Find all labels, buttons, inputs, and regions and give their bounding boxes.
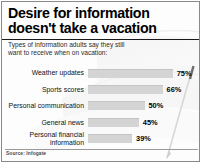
bar-value: 50% bbox=[149, 101, 164, 110]
bar bbox=[88, 85, 163, 94]
row-label: Weather updates bbox=[2, 69, 88, 77]
row-label: Sports scores bbox=[2, 86, 88, 94]
row-label: Personal financial information bbox=[2, 131, 88, 146]
bar-value: 39% bbox=[136, 134, 151, 143]
chart-row: Sports scores 66% bbox=[2, 81, 200, 97]
row-label: General news bbox=[2, 119, 88, 127]
bar bbox=[88, 134, 132, 143]
bar-zone: 50% bbox=[88, 98, 200, 114]
chart-row: Weather updates 75% bbox=[2, 65, 200, 81]
footer-divider bbox=[5, 149, 198, 150]
bar-zone: 66% bbox=[88, 81, 200, 97]
page-title: Desire for information doesn't take a va… bbox=[8, 6, 195, 36]
infographic-card: Desire for information doesn't take a va… bbox=[0, 0, 201, 163]
chart-subtitle: Types of information adults say they sti… bbox=[8, 41, 128, 57]
bar bbox=[88, 118, 139, 127]
bar-value: 45% bbox=[143, 118, 158, 127]
chart-row: Personal financial information 39% bbox=[2, 131, 200, 147]
bar bbox=[88, 69, 173, 78]
chart-row: General news 45% bbox=[2, 114, 200, 130]
bar-zone: 75% bbox=[88, 65, 200, 81]
bar-zone: 45% bbox=[88, 114, 200, 130]
bar-value: 66% bbox=[167, 85, 182, 94]
bar-chart: Weather updates 75% Sports scores 66% Pe… bbox=[2, 65, 200, 147]
bar-value: 75% bbox=[177, 69, 192, 78]
chart-row: Personal communication 50% bbox=[2, 98, 200, 114]
source-note: Source: Infogate bbox=[6, 151, 46, 157]
bar-zone: 39% bbox=[88, 131, 200, 147]
title-block: Desire for information doesn't take a va… bbox=[2, 2, 200, 40]
row-label: Personal communication bbox=[2, 102, 88, 110]
bar bbox=[88, 101, 145, 110]
card-frame: Desire for information doesn't take a va… bbox=[1, 1, 200, 162]
